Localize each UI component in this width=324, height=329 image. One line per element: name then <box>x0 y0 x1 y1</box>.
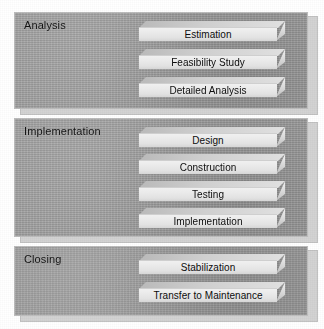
phase-block-label: Estimation <box>184 30 231 40</box>
phase-title-analysis: Analysis <box>24 19 66 31</box>
phase-block-transfer-to-maintenance[interactable]: Transfer to Maintenance <box>139 282 285 302</box>
block-front-face: Construction <box>139 160 277 174</box>
phase-panel-implementation[interactable]: Implementation Design Construction Testi… <box>14 118 308 237</box>
phase-block-label: Testing <box>192 190 224 200</box>
block-front-face: Implementation <box>139 214 277 228</box>
phase-block-label: Feasibility Study <box>171 58 245 68</box>
phase-title-closing: Closing <box>24 253 61 265</box>
phase-title-implementation: Implementation <box>24 125 101 137</box>
block-front-face: Transfer to Maintenance <box>139 288 277 302</box>
phase-block-construction[interactable]: Construction <box>139 154 285 174</box>
phase-block-label: Detailed Analysis <box>169 86 246 96</box>
block-front-face: Stabilization <box>139 260 277 274</box>
phase-block-feasibility-study[interactable]: Feasibility Study <box>139 49 285 69</box>
phase-panel-closing[interactable]: Closing Stabilization Transfer to Mainte… <box>14 246 308 316</box>
phase-block-implementation[interactable]: Implementation <box>139 208 285 228</box>
phase-block-label: Construction <box>180 163 237 173</box>
block-front-face: Design <box>139 133 277 147</box>
block-front-face: Testing <box>139 187 277 201</box>
phase-block-label: Transfer to Maintenance <box>153 291 262 301</box>
phase-diagram: Analysis Estimation Feasibility Study De… <box>0 0 324 329</box>
phase-block-label: Implementation <box>173 217 242 227</box>
block-front-face: Estimation <box>139 27 277 41</box>
block-front-face: Detailed Analysis <box>139 83 277 97</box>
phase-block-label: Design <box>192 136 223 146</box>
block-front-face: Feasibility Study <box>139 55 277 69</box>
phase-block-estimation[interactable]: Estimation <box>139 21 285 41</box>
phase-block-stabilization[interactable]: Stabilization <box>139 254 285 274</box>
phase-panel-analysis[interactable]: Analysis Estimation Feasibility Study De… <box>14 12 308 109</box>
phase-block-detailed-analysis[interactable]: Detailed Analysis <box>139 77 285 97</box>
phase-block-testing[interactable]: Testing <box>139 181 285 201</box>
phase-block-label: Stabilization <box>181 263 236 273</box>
phase-block-design[interactable]: Design <box>139 127 285 147</box>
